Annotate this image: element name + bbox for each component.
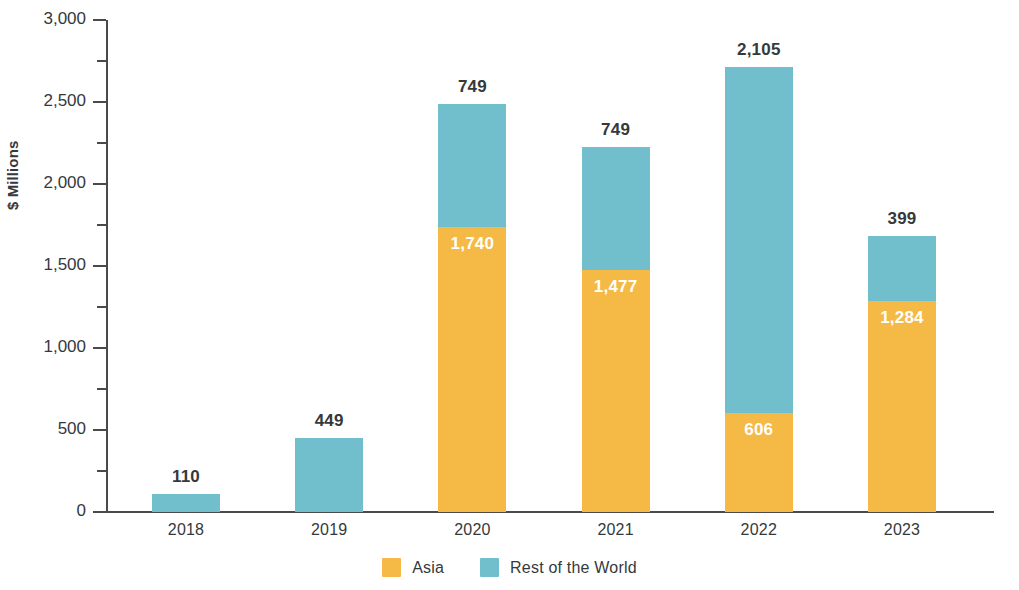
- y-tick-label: 1,000: [0, 337, 86, 357]
- legend-item[interactable]: Asia: [382, 558, 444, 577]
- y-tick-label: 2,500: [0, 91, 86, 111]
- y-tick-major: [93, 101, 106, 103]
- bar-segment-rest-of-the-world[interactable]: [582, 147, 650, 270]
- x-axis-label: 2022: [709, 521, 809, 539]
- bar-segment-rest-of-the-world[interactable]: [725, 67, 793, 412]
- y-tick-label: 2,000: [0, 173, 86, 193]
- x-axis-label: 2018: [136, 521, 236, 539]
- bar-segment-rest-of-the-world[interactable]: [438, 104, 506, 227]
- bar-segment-asia[interactable]: 1,284: [868, 301, 936, 512]
- y-tick-minor: [97, 388, 106, 390]
- plot-area: 05001,0001,5002,0002,5003,000 1104491,74…: [0, 0, 1019, 590]
- bar-top-label: 399: [846, 209, 958, 229]
- bar-segment-asia[interactable]: 1,740: [438, 227, 506, 512]
- legend-swatch-icon: [382, 558, 401, 577]
- bar-segment-rest-of-the-world[interactable]: [868, 236, 936, 301]
- x-axis-label: 2023: [852, 521, 952, 539]
- y-tick-label: 500: [0, 419, 86, 439]
- legend-swatch-icon: [480, 558, 499, 577]
- y-axis-line: [106, 20, 108, 513]
- y-tick-label: 3,000: [0, 9, 86, 29]
- bar-group[interactable]: 606: [725, 67, 793, 512]
- bar-group[interactable]: 1,477: [582, 147, 650, 512]
- x-axis-line: [106, 511, 994, 513]
- stacked-bar-chart: $ Millions 05001,0001,5002,0002,5003,000…: [0, 0, 1019, 590]
- bar-group[interactable]: 1,284: [868, 236, 936, 512]
- y-tick-major: [93, 19, 106, 21]
- bar-group[interactable]: [295, 438, 363, 512]
- y-tick-major: [93, 429, 106, 431]
- y-tick-major: [93, 183, 106, 185]
- chart-legend: AsiaRest of the World: [0, 558, 1019, 577]
- bar-group[interactable]: 1,740: [438, 104, 506, 512]
- bar-segment-label-asia: 1,477: [582, 277, 650, 297]
- bar-segment-label-asia: 1,740: [438, 234, 506, 254]
- bar-segment-rest-of-the-world[interactable]: [152, 494, 220, 512]
- bar-segment-label-asia: 1,284: [868, 308, 936, 328]
- bar-segment-asia[interactable]: 606: [725, 413, 793, 512]
- bar-top-label: 749: [560, 120, 672, 140]
- legend-item[interactable]: Rest of the World: [480, 558, 637, 577]
- y-tick-major: [93, 347, 106, 349]
- bar-top-label: 749: [416, 77, 528, 97]
- y-tick-minor: [97, 306, 106, 308]
- legend-label: Asia: [412, 559, 444, 577]
- x-axis-label: 2020: [422, 521, 522, 539]
- bar-segment-asia[interactable]: 1,477: [582, 270, 650, 512]
- y-tick-major: [93, 265, 106, 267]
- y-tick-minor: [97, 470, 106, 472]
- y-tick-minor: [97, 60, 106, 62]
- legend-label: Rest of the World: [510, 559, 637, 577]
- y-tick-label: 1,500: [0, 255, 86, 275]
- bar-top-label: 2,105: [703, 40, 815, 60]
- y-tick-minor: [97, 142, 106, 144]
- bar-top-label: 449: [273, 411, 385, 431]
- x-axis-label: 2019: [279, 521, 379, 539]
- bar-segment-label-asia: 606: [725, 420, 793, 440]
- bar-top-label: 110: [130, 467, 242, 487]
- bar-segment-rest-of-the-world[interactable]: [295, 438, 363, 512]
- y-tick-major: [93, 511, 106, 513]
- y-tick-label: 0: [0, 501, 86, 521]
- y-tick-minor: [97, 224, 106, 226]
- x-axis-label: 2021: [566, 521, 666, 539]
- bar-group[interactable]: [152, 494, 220, 512]
